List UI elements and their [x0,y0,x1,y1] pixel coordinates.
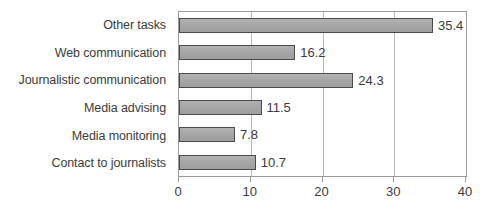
x-tick-label: 20 [314,184,328,199]
bar [179,18,433,33]
bar [179,100,262,115]
x-tick-mark [250,177,251,182]
x-tick-mark [322,177,323,182]
bar [179,155,256,170]
category-label-row: Journalistic communication [0,66,172,94]
category-label-row: Web communication [0,39,172,67]
x-tick-label: 10 [243,184,257,199]
category-label: Media advising [84,101,172,115]
category-label: Web communication [55,46,172,60]
bar [179,73,353,88]
category-label: Media monitoring [72,129,172,143]
bars-layer: 35.4 16.2 24.3 11.5 7.8 10.7 [179,12,466,176]
x-tick-label: 30 [386,184,400,199]
category-label-row: Media monitoring [0,122,172,150]
x-tick-mark [178,177,179,182]
bar-chart-figure: Other tasks Web communication Journalist… [0,0,489,214]
bar-row: 35.4 [179,12,466,39]
x-tick-mark [465,177,466,182]
x-tick-label: 40 [458,184,472,199]
x-axis-tick-labels: 010203040 [178,184,467,204]
x-axis-tick-marks [178,177,467,183]
bar-row: 24.3 [179,67,466,94]
bar-row: 7.8 [179,121,466,148]
bar-value-label: 35.4 [438,18,463,33]
category-label-row: Contact to journalists [0,149,172,177]
x-tick-mark [393,177,394,182]
bar-row: 10.7 [179,149,466,176]
bar-value-label: 7.8 [240,127,258,142]
plot-area: 35.4 16.2 24.3 11.5 7.8 10.7 [178,11,467,177]
category-label: Other tasks [103,18,172,32]
bar-row: 11.5 [179,94,466,121]
category-label: Journalistic communication [19,73,172,87]
bar-value-label: 16.2 [300,45,325,60]
category-label-row: Media advising [0,94,172,122]
bar [179,45,295,60]
bar [179,127,235,142]
category-label-row: Other tasks [0,11,172,39]
category-label: Contact to journalists [51,156,172,170]
category-axis-labels: Other tasks Web communication Journalist… [0,11,172,177]
x-tick-label: 0 [174,184,181,199]
bar-value-label: 10.7 [261,155,286,170]
bar-value-label: 11.5 [267,100,291,115]
bar-value-label: 24.3 [358,73,383,88]
bar-row: 16.2 [179,39,466,66]
